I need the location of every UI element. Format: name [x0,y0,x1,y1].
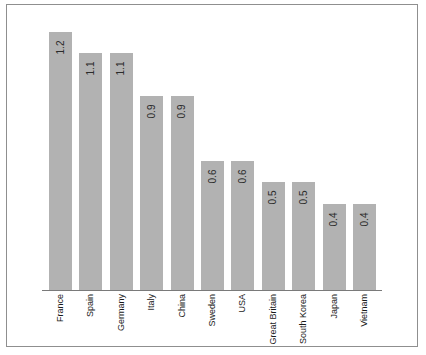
bar-value-label: 1.1 [110,57,133,80]
category-label: Great Britain [262,294,285,352]
bar-chart-figure: 1.21.11.10.90.90.60.60.50.50.40.4 France… [0,0,426,355]
bar-value-label: 0.4 [353,208,376,231]
bar-value-label: 1.1 [79,57,102,80]
bar-value-label: 0.9 [171,100,194,123]
bar-value-label: 0.9 [140,100,163,123]
category-axis-line [42,290,382,291]
category-label: Italy [140,294,163,352]
category-label: Germany [110,294,133,352]
bar-value-label: 1.2 [49,36,72,59]
bar[interactable] [110,53,133,290]
bar-value-label: 0.5 [292,186,315,209]
category-label: South Korea [292,294,315,352]
bar[interactable] [140,96,163,290]
bar[interactable] [171,96,194,290]
category-label: France [49,294,72,352]
bar-group: 1.2 [49,32,72,290]
bar-group: 1.1 [79,53,102,290]
category-label: Spain [79,294,102,352]
category-label: Japan [323,294,346,352]
category-label: China [171,294,194,352]
bar-value-label: 0.6 [231,165,254,188]
bar-group: 0.4 [323,204,346,290]
bar-group: 1.1 [110,53,133,290]
category-label: Vietnam [353,294,376,352]
bar[interactable] [49,32,72,290]
bar[interactable] [79,53,102,290]
bar-value-label: 0.4 [323,208,346,231]
bar-group: 0.9 [140,96,163,290]
category-label: USA [231,294,254,352]
bar-group: 0.6 [201,161,224,290]
category-label: Sweden [201,294,224,352]
bar-value-label: 0.6 [201,165,224,188]
bar-group: 0.6 [231,161,254,290]
bar-value-label: 0.5 [262,186,285,209]
bar-group: 0.9 [171,96,194,290]
bar-group: 0.5 [292,182,315,290]
bar-group: 0.5 [262,182,285,290]
bar-group: 0.4 [353,204,376,290]
